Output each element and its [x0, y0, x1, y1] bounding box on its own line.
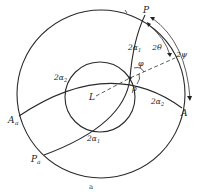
label-L: L	[88, 92, 95, 102]
label-P-a-sub: a	[37, 158, 41, 165]
label-2alpha2-right: 2α	[150, 97, 161, 106]
label-rho: ρ	[131, 84, 137, 93]
label-A-a-sub: a	[15, 119, 19, 126]
label-2alpha1-bottom-sub: 1	[97, 138, 100, 144]
label-2alpha1-bottom: 2α	[86, 134, 97, 143]
stereographic-projection-diagram: P A A a P a L 2α 1 2α 1 2α 2 2α 2 2θ 2ψ …	[0, 0, 215, 192]
label-phi: φ	[138, 59, 144, 68]
label-2alpha1-top-sub: 1	[138, 47, 141, 53]
tick-mark	[125, 10, 127, 13]
label-A-a: A	[7, 115, 15, 125]
label-2alpha1-top: 2α	[127, 43, 138, 52]
arrow-head	[187, 96, 192, 101]
label-P: P	[142, 5, 150, 15]
label-2alpha2-left-sub: 2	[63, 77, 67, 83]
label-2alpha2-right-sub: 2	[160, 101, 164, 107]
arrow-head	[150, 17, 155, 21]
label-2psi: 2ψ	[175, 50, 188, 59]
phi-arc	[134, 68, 144, 73]
label-2alpha2-left: 2α	[53, 73, 64, 82]
arrow-head	[167, 53, 172, 57]
rho-arc	[137, 74, 140, 84]
label-2theta: 2θ	[151, 43, 162, 52]
label-A: A	[180, 108, 188, 118]
pole-point	[128, 76, 131, 79]
figure-caption: a	[89, 183, 93, 191]
